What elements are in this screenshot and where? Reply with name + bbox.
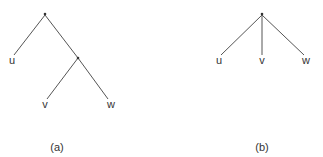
edge-a-root-inner [45,15,78,58]
tree-diagrams [0,0,323,157]
tree-a-inner-node [77,57,80,60]
edge-a-inner-v [47,58,78,99]
tree-a [14,13,108,99]
edge-b-root-u [221,15,262,55]
tree-a-leaf-v: v [42,99,48,110]
tree-a-root-node [44,13,47,16]
tree-b-leaf-w: w [302,55,310,66]
tree-b-leaf-v: v [259,55,265,66]
edge-a-root-u [14,15,45,55]
caption-a: (a) [50,142,63,153]
tree-b-root-node [261,13,264,16]
tree-b-leaf-u: u [216,55,222,66]
caption-b: (b) [255,142,268,153]
edge-a-inner-w [78,58,108,99]
edge-b-root-w [262,15,304,55]
tree-b [221,13,304,55]
tree-a-leaf-u: u [9,55,15,66]
tree-a-leaf-w: w [107,99,115,110]
